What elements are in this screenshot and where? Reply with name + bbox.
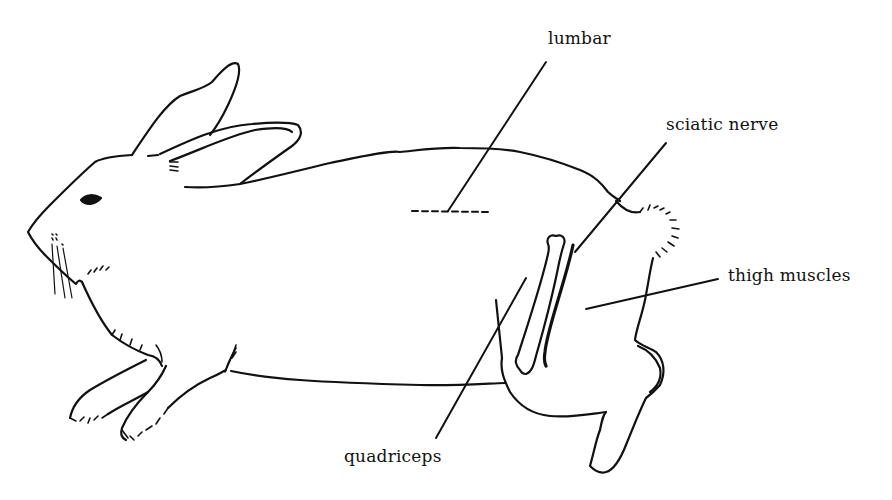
leader-line-lumbar	[448, 62, 546, 211]
rabbit-belly	[231, 371, 505, 385]
rabbit-anatomy-diagram	[0, 0, 892, 500]
rabbit-head	[28, 155, 178, 298]
eye-icon	[81, 195, 101, 204]
leader-line-sciatic-nerve	[575, 143, 666, 252]
rabbit-back	[185, 148, 620, 201]
leader-line-quadriceps	[436, 278, 526, 438]
label-sciatic-nerve: sciatic nerve	[666, 116, 778, 133]
rabbit-tail	[616, 201, 679, 257]
rabbit-hind-leg	[496, 258, 663, 473]
lumbar-marker	[412, 211, 488, 212]
rabbit-front-legs	[70, 282, 236, 440]
label-thigh-muscles: thigh muscles	[728, 267, 851, 284]
label-lumbar: lumbar	[548, 30, 611, 47]
rabbit-ears	[132, 63, 301, 184]
label-quadriceps: quadriceps	[344, 448, 442, 465]
leader-line-thigh-muscles	[586, 279, 718, 309]
